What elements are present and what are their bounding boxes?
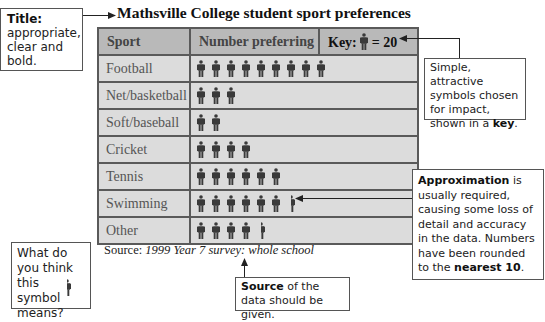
source-callout: Source of the data should be given. [235, 277, 350, 311]
person-icon [212, 222, 220, 239]
symbol-cell [190, 190, 418, 217]
person-icon [212, 168, 220, 185]
table-row: Cricket [98, 136, 418, 163]
key-callout-end: . [514, 117, 518, 130]
symbol-cell [190, 109, 418, 136]
half-person-icon [257, 222, 265, 239]
person-icon [197, 195, 205, 212]
title-callout: Title: appropriate, clear and bold. [0, 8, 83, 71]
half-person-icon [287, 195, 295, 212]
person-icon [257, 60, 265, 77]
person-icon [197, 114, 205, 131]
person-icon [212, 141, 220, 158]
symbol-cell [190, 82, 418, 109]
person-icon [227, 168, 235, 185]
sport-name: Other [98, 217, 190, 244]
approx-callout-text: is usually required, causing some loss o… [418, 174, 535, 274]
key-arrow-line-v [459, 38, 460, 59]
person-icon [302, 60, 310, 77]
person-icon [197, 222, 205, 239]
table-header-row: Sport Number preferring Key: = 20 [98, 28, 418, 55]
table-row: Swimming [98, 190, 418, 217]
sport-name: Swimming [98, 190, 190, 217]
person-icon [227, 222, 235, 239]
person-icon [242, 222, 250, 239]
half-person-icon [63, 279, 71, 296]
symbol-cell [190, 163, 418, 190]
person-icon [212, 114, 220, 131]
person-icon [227, 195, 235, 212]
title-callout-bold: Title: [7, 12, 42, 26]
person-icon [272, 195, 280, 212]
key-callout-bold: key [493, 117, 515, 130]
sport-name: Cricket [98, 136, 190, 163]
person-icon [227, 60, 235, 77]
person-icon [227, 87, 235, 104]
source-arrow-line [244, 265, 245, 277]
approx-callout-bold: Approximation [418, 174, 509, 187]
person-icon [197, 168, 205, 185]
table-row: Net/basketball [98, 82, 418, 109]
chart-title: Mathsville College student sport prefere… [117, 4, 411, 22]
header-number: Number preferring [190, 28, 319, 55]
title-callout-text: appropriate, clear and bold. [7, 26, 81, 68]
key-arrow-line-h [406, 38, 460, 39]
question-callout: What do you think this symbol means? [11, 242, 91, 309]
approx-callout-end: . [521, 261, 525, 274]
approx-arrow-line [302, 198, 413, 199]
person-icon [360, 33, 368, 50]
person-icon [197, 60, 205, 77]
person-icon [242, 195, 250, 212]
table-row: Soft/baseball [98, 109, 418, 136]
person-icon [212, 195, 220, 212]
header-sport: Sport [98, 28, 190, 55]
person-icon [317, 60, 325, 77]
table-row: Football [98, 55, 418, 82]
sport-name: Net/basketball [98, 82, 190, 109]
table-row: Other [98, 217, 418, 244]
symbol-cell [190, 217, 418, 244]
person-icon [272, 168, 280, 185]
person-icon [197, 87, 205, 104]
symbol-cell [190, 55, 418, 82]
person-icon [212, 87, 220, 104]
person-icon [212, 60, 220, 77]
source-line: Source: 1999 Year 7 survey: whole school [104, 243, 314, 258]
title-arrow-head [108, 12, 116, 19]
key-callout: Simple, attractive symbols chosen for im… [424, 58, 526, 120]
key-arrow-head [399, 35, 407, 42]
person-icon [287, 60, 295, 77]
sport-name: Football [98, 55, 190, 82]
sport-name: Soft/baseball [98, 109, 190, 136]
key-value: = 20 [372, 35, 397, 50]
person-icon [242, 141, 250, 158]
source-callout-bold: Source [241, 280, 284, 293]
person-icon [242, 60, 250, 77]
pictogram-table: Sport Number preferring Key: = 20 Footba… [97, 27, 419, 245]
sport-name: Tennis [98, 163, 190, 190]
person-icon [197, 141, 205, 158]
person-icon [257, 195, 265, 212]
approx-callout-bold2: nearest 10 [454, 261, 521, 274]
person-icon [227, 141, 235, 158]
source-text: 1999 Year 7 survey: whole school [145, 243, 314, 257]
key-label: Key: [328, 35, 357, 50]
source-label: Source: [104, 243, 142, 257]
approximation-callout: Approximation is usually required, causi… [412, 169, 544, 280]
table-row: Tennis [98, 163, 418, 190]
person-icon [257, 168, 265, 185]
person-icon [242, 168, 250, 185]
symbol-cell [190, 136, 418, 163]
person-icon [272, 60, 280, 77]
